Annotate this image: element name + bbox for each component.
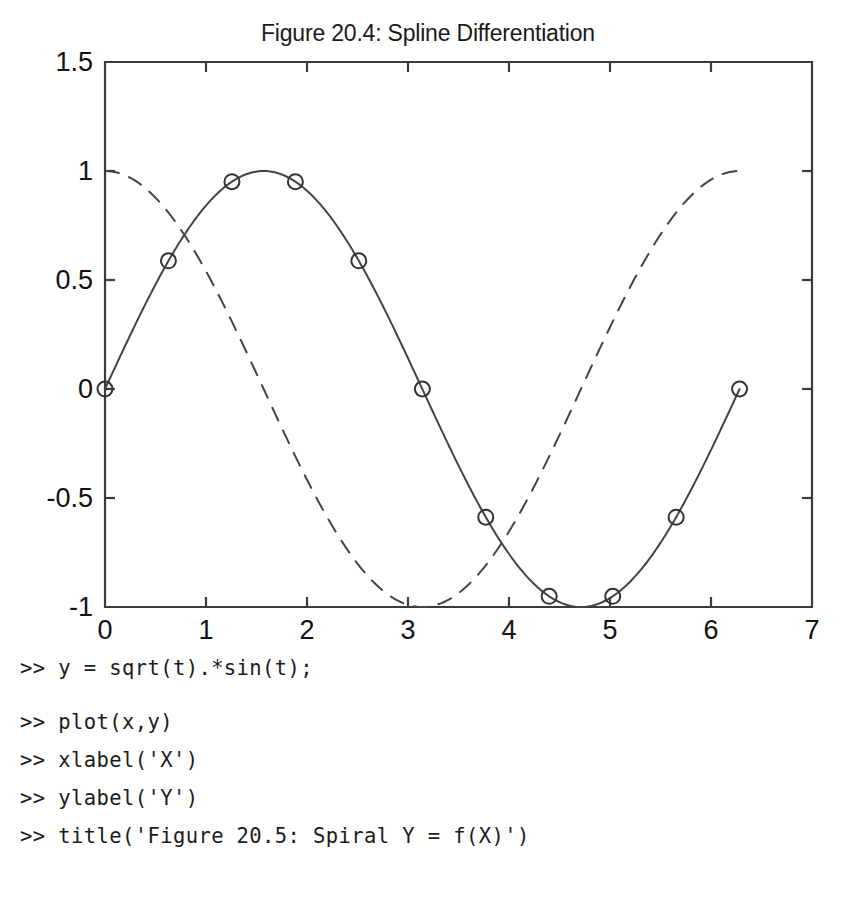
x-tick-label: 3	[400, 615, 415, 645]
x-tick-label: 0	[97, 615, 112, 645]
x-tick-label: 7	[804, 615, 819, 645]
axis-frame	[105, 62, 812, 607]
console-line[interactable]: >> ylabel('Y')	[20, 786, 198, 810]
y-tick-label: 1.5	[55, 47, 93, 77]
console-line[interactable]: >> y = sqrt(t).*sin(t);	[20, 656, 313, 680]
matlab-console[interactable]: >> y = sqrt(t).*sin(t);>> plot(x,y)>> xl…	[0, 648, 856, 903]
y-tick-label: -0.5	[46, 483, 93, 513]
plot-canvas: 012345671.510.50-0.5-1	[0, 0, 856, 650]
series-line	[105, 171, 740, 607]
x-tick-label: 5	[602, 615, 617, 645]
page-root: Figure 20.4: Spline Differentiation 0123…	[0, 0, 856, 903]
console-line[interactable]: >> plot(x,y)	[20, 710, 173, 734]
console-line[interactable]: >> title('Figure 20.5: Spiral Y = f(X)')	[20, 824, 530, 848]
y-tick-label: 1	[78, 156, 93, 186]
x-tick-label: 1	[198, 615, 213, 645]
x-tick-label: 2	[299, 615, 314, 645]
y-tick-label: 0.5	[55, 265, 93, 295]
y-tick-label: 0	[78, 374, 93, 404]
x-tick-label: 4	[501, 615, 516, 645]
matlab-figure: Figure 20.4: Spline Differentiation 0123…	[0, 0, 856, 650]
x-tick-label: 6	[703, 615, 718, 645]
y-tick-label: -1	[69, 592, 93, 622]
console-line[interactable]: >> xlabel('X')	[20, 748, 198, 772]
